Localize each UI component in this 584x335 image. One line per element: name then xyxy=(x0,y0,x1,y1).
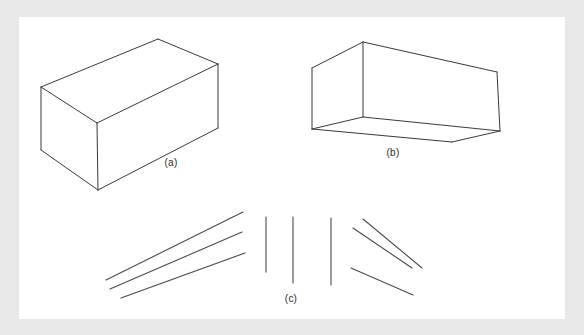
panel-b-edge-1 xyxy=(363,42,497,72)
panel-b-edge-6 xyxy=(363,117,500,131)
left-converging-lines-1 xyxy=(110,232,242,289)
figure-root: (a) (b) (c) xyxy=(0,0,584,335)
right-descending-lines-2 xyxy=(351,268,413,295)
panel-a-label: (a) xyxy=(165,157,178,168)
panel-a-edge-1 xyxy=(158,39,218,64)
panel-a-edge-7 xyxy=(41,150,98,190)
right-descending-lines-0 xyxy=(363,219,422,268)
panel-a-edge-3 xyxy=(41,87,97,123)
panel-b-edge-0 xyxy=(312,42,363,68)
panel-c-line-segments xyxy=(106,212,422,298)
panel-b-edge-7 xyxy=(312,129,452,142)
panel-a-edge-0 xyxy=(41,39,158,87)
panel-a-edge-2 xyxy=(97,64,218,123)
panel-a-edge-5 xyxy=(97,123,98,190)
panel-b-box-drawing xyxy=(312,42,500,142)
panel-b-label: (b) xyxy=(387,147,400,158)
left-converging-lines-0 xyxy=(106,212,243,280)
panel-a-box-drawing xyxy=(41,39,218,190)
figure-drawing xyxy=(0,0,584,335)
left-converging-lines-2 xyxy=(121,253,245,298)
right-descending-lines-1 xyxy=(353,228,412,268)
panel-b-edge-5 xyxy=(312,117,363,129)
panel-a-edge-8 xyxy=(98,128,218,190)
panel-b-edge-8 xyxy=(452,131,500,142)
panel-c-label: (c) xyxy=(285,293,297,304)
panel-b-edge-4 xyxy=(497,72,500,131)
